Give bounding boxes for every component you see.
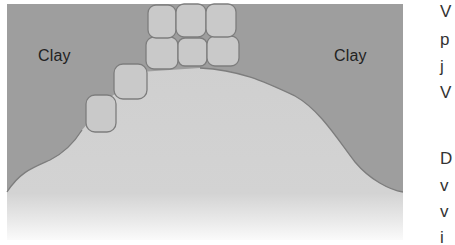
clay-label-right: Clay: [334, 47, 367, 65]
side-text-line: i: [440, 229, 444, 245]
soil-cross-section-diagram: Clay Clay: [0, 0, 410, 245]
side-text-line: v: [440, 203, 449, 220]
side-text-line: p: [440, 31, 449, 48]
side-text-line: V: [440, 3, 451, 20]
side-text-line: v: [440, 177, 449, 194]
side-text-line: j: [440, 58, 444, 75]
side-text-line: D: [440, 150, 452, 167]
side-text-line: V: [440, 84, 451, 101]
clay-label-left: Clay: [38, 47, 71, 65]
cropped-side-text: V p j V D v v i: [440, 0, 455, 245]
